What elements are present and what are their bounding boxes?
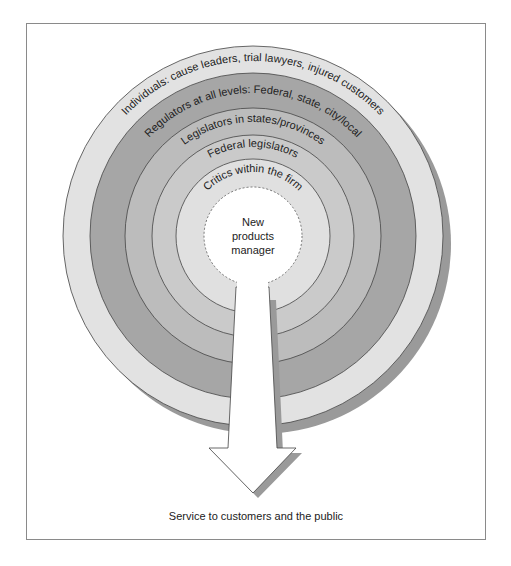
arrow-neck [237,270,268,290]
stakeholder-ring-diagram: Individuals: cause leaders, trial lawyer… [0,0,511,566]
center-label-line3: manager [231,244,275,256]
arrow-caption: Service to customers and the public [26,510,486,522]
center-label-line2: products [232,230,275,242]
center-label-line1: New [242,216,264,228]
